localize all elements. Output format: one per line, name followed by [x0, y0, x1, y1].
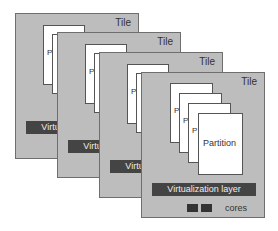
cores-label: cores: [225, 203, 247, 213]
tile-label: Tile: [115, 17, 131, 28]
tile-label: Tile: [199, 56, 215, 67]
core-block: [201, 204, 212, 212]
tile-label: Tile: [157, 36, 173, 47]
virtualization-layer: Virtualization layer: [152, 183, 256, 196]
partition-label: Partition: [203, 138, 236, 148]
cores-row: cores: [187, 203, 247, 213]
tile-label: Tile: [241, 76, 257, 87]
core-block: [187, 204, 198, 212]
tile-4: Tile P P P Partition Virtualization laye…: [141, 72, 265, 218]
partition-front: Partition: [198, 113, 243, 175]
